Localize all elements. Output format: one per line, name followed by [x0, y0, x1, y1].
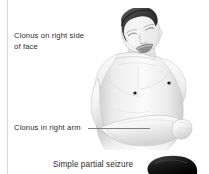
annotation-clonus-face: Clonus on right side of face — [14, 31, 100, 52]
second-figure-hair — [143, 155, 209, 174]
leader-line-clonus-arm — [88, 128, 150, 129]
illustration-panel: Clonus on right side of face Clonus in r… — [0, 0, 209, 174]
annotation-clonus-arm: Clonus in right arm — [14, 123, 94, 134]
figure-caption: Simple partial seizure — [53, 159, 133, 170]
seizure-figure-illustration — [88, 8, 198, 158]
left-border-rule — [7, 0, 8, 174]
